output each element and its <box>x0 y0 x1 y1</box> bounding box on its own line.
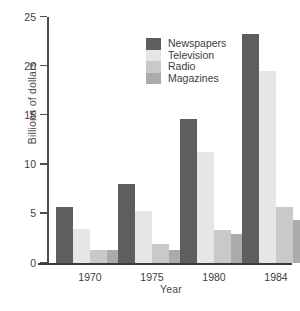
x-axis-line <box>38 263 292 265</box>
x-axis-tick-label: 1984 <box>241 271 300 283</box>
legend-item: Newspapers <box>146 38 226 50</box>
x-axis-tick-label: 1970 <box>55 271 125 283</box>
bar-chart: Billions of dollars 0510152025 197019751… <box>0 0 300 311</box>
y-axis-tick-label: 10 <box>0 159 36 170</box>
legend-swatch <box>146 61 161 73</box>
y-axis-tick <box>40 114 47 116</box>
y-axis-tick-label: 20 <box>0 61 36 72</box>
bar <box>242 34 259 263</box>
bar <box>73 229 90 263</box>
y-axis-tick <box>40 65 47 67</box>
chart-legend: NewspapersTelevisionRadioMagazines <box>146 38 226 84</box>
legend-swatch <box>146 50 161 62</box>
y-axis-tick-label: 15 <box>0 110 36 121</box>
bar <box>118 184 135 263</box>
bar <box>214 230 231 263</box>
bar <box>276 207 293 263</box>
legend-swatch <box>146 38 161 50</box>
bar <box>56 207 73 263</box>
bar <box>197 152 214 263</box>
y-axis-line <box>47 17 49 263</box>
bar <box>293 220 300 263</box>
bar <box>259 71 276 263</box>
x-axis-tick-label: 1980 <box>179 271 249 283</box>
y-axis-tick-label: 0 <box>0 258 36 269</box>
legend-item: Magazines <box>146 73 226 85</box>
y-axis-tick <box>40 163 47 165</box>
y-axis-tick <box>40 16 47 18</box>
y-axis-tick-label: 5 <box>0 208 36 219</box>
legend-label: Magazines <box>168 73 219 85</box>
bar <box>90 250 107 263</box>
bar <box>180 119 197 263</box>
plot-area: 0510152025 1970197519801984 NewspapersTe… <box>47 17 295 263</box>
bar-group <box>242 17 300 263</box>
x-axis-tick-label: 1975 <box>117 271 187 283</box>
bar <box>152 244 169 263</box>
y-axis-tick <box>40 262 47 264</box>
bar <box>135 211 152 263</box>
y-axis-tick <box>40 212 47 214</box>
bar-group <box>56 17 124 263</box>
x-axis-title: Year <box>47 283 295 295</box>
legend-swatch <box>146 73 161 85</box>
legend-label: Newspapers <box>168 38 226 50</box>
y-axis-tick-label: 25 <box>0 12 36 23</box>
